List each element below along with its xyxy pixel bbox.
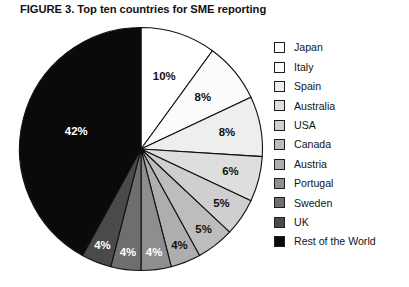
pie-slice-label: 5% [195,223,211,235]
legend-swatch [274,217,285,228]
legend-item[interactable]: Australia [274,96,406,115]
page-title: FIGURE 3. Top ten countries for SME repo… [20,3,266,15]
legend-item-label: Australia [294,101,335,112]
legend-item-label: UK [294,217,309,228]
pie-chart-svg: 10%8%8%6%5%5%4%4%4%4%42% [18,26,266,274]
legend-swatch [274,139,285,150]
legend-swatch [274,120,285,131]
pie-slice-label: 4% [171,239,187,251]
legend-swatch [274,236,285,247]
legend-item-label: Canada [294,139,331,150]
pie-slice-label: 6% [222,165,238,177]
legend-item-label: Japan [294,42,323,53]
legend-swatch [274,159,285,170]
legend-item[interactable]: Spain [274,77,406,96]
pie-slice-label: 4% [120,246,136,258]
legend-swatch [274,42,285,53]
legend-item[interactable]: Austria [274,154,406,173]
legend-swatch [274,81,285,92]
pie-slice-label: 5% [213,197,229,209]
legend-swatch [274,100,285,111]
pie-slice-label: 4% [146,246,162,258]
pie-slice-label: 42% [65,125,88,137]
legend-item-label: Spain [294,81,321,92]
legend-item-label: Portugal [294,178,333,189]
legend-item-label: Rest of the World [294,236,376,247]
legend: JapanItalySpainAustraliaUSACanadaAustria… [274,38,406,251]
pie-chart: 10%8%8%6%5%5%4%4%4%4%42% [18,26,266,274]
legend-item-label: Austria [294,159,327,170]
legend-item[interactable]: Portugal [274,174,406,193]
pie-slice-label: 8% [219,126,235,138]
pie-slice-label: 8% [195,91,211,103]
legend-swatch [274,62,285,73]
legend-swatch [274,197,285,208]
legend-item[interactable]: Japan [274,38,406,57]
pie-slice-group [20,28,263,271]
legend-item[interactable]: Canada [274,135,406,154]
pie-slice-label: 4% [94,239,110,251]
legend-item[interactable]: Italy [274,57,406,76]
legend-item-label: Sweden [294,198,332,209]
legend-item[interactable]: UK [274,213,406,232]
legend-swatch [274,178,285,189]
pie-slice-label: 10% [153,70,176,82]
figure-container: FIGURE 3. Top ten countries for SME repo… [0,0,409,287]
legend-item[interactable]: Rest of the World [274,232,406,251]
legend-item-label: USA [294,120,316,131]
legend-item-label: Italy [294,62,313,73]
legend-item[interactable]: USA [274,116,406,135]
legend-item[interactable]: Sweden [274,193,406,212]
